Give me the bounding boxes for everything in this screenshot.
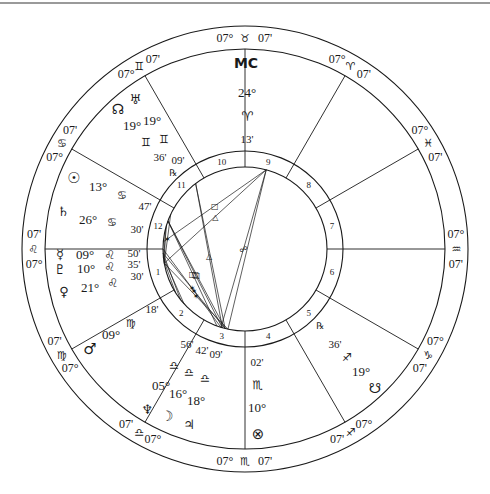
zodiac-sign-icon: ♓	[423, 137, 433, 150]
venus-min-label: 30'	[131, 270, 144, 282]
south-node-icon: ☋	[369, 380, 381, 396]
house-number-5: 5	[306, 308, 311, 318]
cusp-minute: 07'	[63, 123, 77, 137]
pluto-icon: ♇	[54, 262, 66, 277]
house-number-11: 11	[177, 180, 186, 190]
saturn-sign-icon: ♋	[107, 216, 117, 229]
pof-sign-icon: ♏	[253, 378, 264, 392]
sign-cusp-virgo: 07°♍07'	[47, 334, 78, 375]
cusp-minute: 07'	[330, 432, 344, 446]
mars-min-label: 18'	[146, 303, 159, 315]
zodiac-sign-icon: ♌	[29, 243, 39, 256]
sign-cusp-leo: 07°♌07'	[26, 227, 43, 272]
house-number-7: 7	[330, 221, 335, 231]
mc-deg-label: 24°	[238, 85, 256, 100]
jupiter-min-label: 09'	[210, 348, 223, 360]
pof-deg-label: 10°	[248, 400, 266, 415]
neptune-min-label: 56'	[181, 338, 194, 350]
cusp-degree: 07°	[145, 432, 162, 446]
mc-sign-icon: ♈	[241, 109, 253, 124]
uranus-deg-label: 19°	[143, 113, 161, 128]
neptune-sign-icon: ♎	[169, 359, 179, 372]
sign-cusp-aries: 07°♈07'	[329, 52, 371, 81]
uranus-retro-icon: ℞	[169, 168, 177, 178]
zodiac-sign-icon: ♈	[346, 60, 356, 73]
sun-min-label: 47'	[139, 200, 152, 212]
pof-min-label: 02'	[251, 356, 264, 368]
mercury-icon: ☿	[56, 247, 64, 262]
house-number-4: 4	[266, 331, 271, 341]
moon-deg-label: 16°	[169, 386, 187, 401]
sign-cusp-scorpio: 07°♏07'	[217, 454, 272, 468]
uranus-min-label: 09'	[172, 154, 185, 166]
aspect-line-opposition	[228, 170, 266, 329]
snode-min-label: 36'	[329, 338, 342, 350]
moon-sign-icon: ♎	[184, 366, 194, 379]
jupiter-deg-label: 18°	[187, 393, 205, 408]
snode-sign-icon: ♐	[342, 351, 352, 364]
pluto-sign-icon: ♌	[105, 260, 116, 274]
zodiac-sign-icon: ♎	[134, 426, 144, 439]
node-sign-icon: ♊	[141, 136, 151, 149]
sun-icon: ☉	[67, 169, 80, 187]
node-min-label: 36'	[154, 151, 167, 163]
astrology-wheel: 07°♉07'07°♈07'07°♓07'07°♒07'07°♑07'07°♐0…	[0, 0, 490, 494]
jupiter-sign-icon: ♎	[200, 372, 210, 385]
jupiter-icon: ♃	[183, 417, 195, 432]
saturn-min-label: 30'	[131, 223, 144, 235]
sign-cusp-taurus: 07°♉07'	[217, 31, 272, 45]
sign-cusp-libra: 07°♎07'	[119, 417, 162, 446]
cusp-minute: 07'	[258, 454, 272, 468]
uranus-icon: ♅	[129, 92, 141, 107]
venus-deg-label: 21°	[81, 280, 99, 295]
venus-sign-icon: ♌	[108, 276, 119, 290]
cusp-degree: 07°	[427, 334, 444, 348]
mars-deg-label: 09°	[102, 327, 120, 342]
cusp-degree: 07°	[62, 361, 79, 375]
house-number-8: 8	[306, 180, 311, 190]
zodiac-sign-icon: ♑	[423, 349, 433, 362]
saturn-icon: ♄	[57, 204, 69, 219]
mc-icon: MC	[234, 55, 258, 71]
cusp-degree: 07°	[412, 123, 429, 137]
house-cusp-line	[316, 149, 418, 208]
house-number-1: 1	[156, 267, 161, 277]
sign-cusp-sagittarius: 07°♐07'	[330, 417, 373, 446]
neptune-icon: ♆	[141, 402, 153, 417]
sign-cusp-gemini: 07°♊07'	[118, 52, 160, 81]
zodiac-sign-icon: ♉	[240, 32, 250, 45]
snode-deg-label: 19°	[352, 364, 370, 379]
house-number-9: 9	[266, 157, 271, 167]
cusp-minute: 07'	[258, 31, 272, 45]
aspect-square-icon: □	[211, 202, 219, 211]
cusp-minute: 07'	[146, 52, 160, 66]
house-cusp-line	[286, 320, 345, 422]
cusp-degree: 07°	[329, 52, 346, 66]
uranus-sign-icon: ♊	[159, 133, 169, 146]
zodiac-sign-icon: ♍	[57, 349, 67, 362]
neptune-deg-label: 05°	[152, 378, 170, 393]
sign-cusp-capricorn: 07°♑07'	[413, 334, 444, 375]
house-number-12: 12	[154, 221, 163, 231]
cusp-degree: 07°	[217, 454, 234, 468]
house-number-3: 3	[219, 331, 224, 341]
mars-sign-icon: ♍	[126, 317, 136, 330]
node-deg-label: 19°	[123, 118, 141, 133]
house-number-10: 10	[217, 157, 227, 167]
house-cusp-line	[286, 76, 345, 178]
aspect-lines: □△✶△☍□□□✶✶✶	[163, 170, 266, 329]
cusp-minute: 07'	[357, 67, 371, 81]
aspect-square-icon: □	[193, 271, 201, 280]
cusp-minute: 07'	[47, 334, 61, 348]
pluto-min-label: 35'	[128, 258, 141, 270]
cusp-minute: 07'	[413, 361, 427, 375]
cusp-degree: 07°	[46, 150, 63, 164]
sign-cusp-cancer: 07°♋07'	[46, 123, 77, 164]
aspect-trine-icon: △	[212, 213, 219, 222]
aspect-line-sextile	[164, 260, 176, 292]
cusp-minute: 07'	[27, 227, 41, 241]
pluto-deg-label: 10°	[77, 261, 95, 276]
sign-cusp-pisces: 07°♓07'	[412, 123, 443, 164]
snode-retro-icon: ℞	[316, 321, 324, 331]
north-node-icon: ☊	[112, 101, 124, 117]
